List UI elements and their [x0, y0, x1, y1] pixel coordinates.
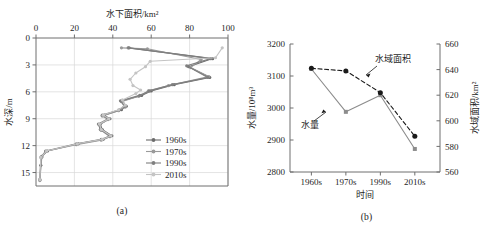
- chart-b-left-axis-title: 水量/10⁸m³: [246, 87, 257, 130]
- svg-text:560: 560: [445, 167, 459, 177]
- svg-text:9: 9: [26, 114, 31, 124]
- svg-text:3100: 3100: [267, 71, 286, 81]
- svg-text:15: 15: [21, 168, 31, 178]
- svg-text:12: 12: [21, 141, 30, 151]
- panel-a-caption: (a): [0, 206, 244, 216]
- svg-text:80: 80: [185, 23, 195, 33]
- svg-text:3: 3: [26, 60, 31, 70]
- chart-a-x-axis-title: 水下面积/km²: [106, 8, 159, 19]
- legend-label-1960s: 1960s: [165, 135, 187, 145]
- svg-text:0: 0: [34, 23, 39, 33]
- svg-text:620: 620: [445, 90, 459, 100]
- x-tick-2010s: 2010s: [404, 177, 426, 187]
- svg-text:640: 640: [445, 65, 459, 75]
- legend-label-1990s: 1990s: [165, 158, 187, 168]
- svg-text:20: 20: [70, 23, 80, 33]
- figure-container: 水下面积/km²02040608010003691215水深/m1960s197…: [0, 0, 489, 228]
- svg-text:100: 100: [221, 23, 235, 33]
- legend-label-2010s: 2010s: [165, 170, 187, 180]
- x-tick-1970s: 1970s: [335, 177, 357, 187]
- panel-b-caption: (b): [244, 212, 489, 222]
- annotation-水量: 水量: [301, 110, 326, 131]
- x-tick-1960s: 1960s: [301, 177, 323, 187]
- x-tick-1990s: 1990s: [370, 177, 392, 187]
- chart-a-legend: 1960s1970s1990s2010s: [146, 135, 187, 180]
- chart-b-right-axis-title: 水域面积/km²: [469, 81, 480, 134]
- svg-text:600: 600: [445, 116, 459, 126]
- panel-a-underwater-area: 水下面积/km²02040608010003691215水深/m1960s197…: [0, 0, 244, 228]
- svg-text:2800: 2800: [267, 167, 286, 177]
- svg-text:6: 6: [26, 87, 31, 97]
- svg-text:水量: 水量: [301, 119, 319, 130]
- annotation-水域面积: 水域面积: [366, 53, 411, 77]
- chart-a-y-axis-title: 水深/m: [3, 98, 14, 126]
- svg-text:580: 580: [445, 142, 459, 152]
- legend-label-1970s: 1970s: [165, 147, 187, 157]
- svg-text:2900: 2900: [267, 135, 286, 145]
- series-2010s: [38, 46, 224, 181]
- svg-text:3000: 3000: [267, 103, 286, 113]
- panel-b-water-volume-area: 2800290030003100320056058060062064066019…: [244, 0, 489, 228]
- svg-text:60: 60: [147, 23, 157, 33]
- chart-a-svg: 水下面积/km²02040608010003691215水深/m1960s197…: [0, 0, 244, 204]
- chart-b-svg: 2800290030003100320056058060062064066019…: [244, 0, 489, 204]
- svg-text:水域面积: 水域面积: [375, 53, 411, 64]
- series-水量: [309, 67, 416, 151]
- svg-text:3200: 3200: [267, 39, 286, 49]
- svg-text:660: 660: [445, 39, 459, 49]
- chart-b-x-axis-title: 时间: [356, 189, 374, 200]
- svg-text:0: 0: [26, 33, 31, 43]
- svg-text:40: 40: [108, 23, 118, 33]
